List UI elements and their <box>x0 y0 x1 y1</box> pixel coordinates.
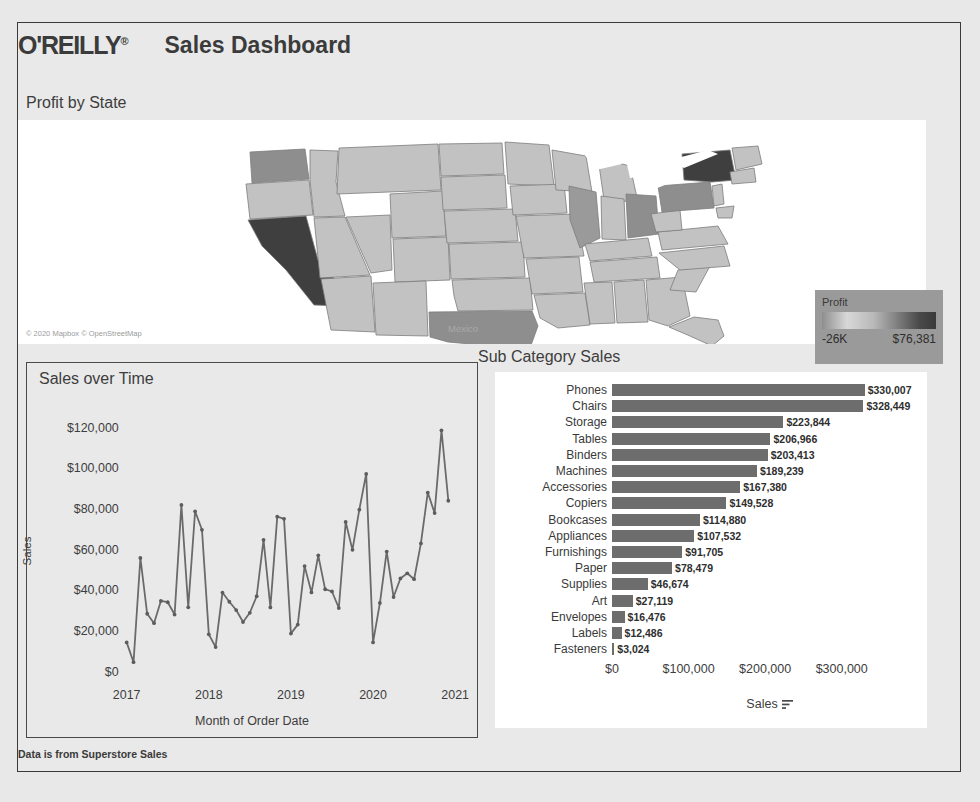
bar-value-label: $16,476 <box>628 611 666 623</box>
bar-row[interactable]: Appliances$107,532 <box>495 528 927 544</box>
bar-category-label: Binders <box>495 448 612 462</box>
bar-row[interactable]: Binders$203,413 <box>495 447 927 463</box>
sort-descending-icon[interactable] <box>782 698 793 712</box>
bar-category-label: Fasteners <box>495 642 612 656</box>
bar-row[interactable]: Storage$223,844 <box>495 414 927 430</box>
bar-row[interactable]: Paper$78,479 <box>495 560 927 576</box>
svg-text:$0: $0 <box>105 665 119 679</box>
bar-value-label: $114,880 <box>703 514 746 526</box>
bar-track: $107,532 <box>612 528 927 544</box>
us-choropleth-svg <box>18 120 926 344</box>
bar-row[interactable]: Fasteners$3,024 <box>495 641 927 657</box>
bar-fill[interactable] <box>612 433 770 445</box>
bar-row[interactable]: Art$27,119 <box>495 592 927 608</box>
svg-text:$120,000: $120,000 <box>67 421 119 435</box>
svg-text:2020: 2020 <box>359 688 387 702</box>
page-title: Sales Dashboard <box>165 32 352 59</box>
bar-track: $330,007 <box>612 382 927 398</box>
bar-axis-tick: $300,000 <box>816 662 868 676</box>
svg-text:$20,000: $20,000 <box>74 624 119 638</box>
sales-over-time-panel[interactable]: Sales over Time $0$20,000$40,000$60,000$… <box>26 362 478 738</box>
bar-fill[interactable] <box>612 497 726 509</box>
sub-category-axis-label: Sales <box>746 697 777 711</box>
sub-category-section-title: Sub Category Sales <box>478 348 620 366</box>
bar-value-label: $107,532 <box>697 530 741 542</box>
bar-value-label: $149,528 <box>729 497 773 509</box>
bar-fill[interactable] <box>612 481 740 493</box>
bar-category-label: Phones <box>495 383 612 397</box>
bar-category-label: Copiers <box>495 496 612 510</box>
bar-category-label: Appliances <box>495 529 612 543</box>
bar-category-label: Chairs <box>495 399 612 413</box>
bar-category-label: Envelopes <box>495 610 612 624</box>
bar-category-label: Accessories <box>495 480 612 494</box>
bar-row[interactable]: Supplies$46,674 <box>495 576 927 592</box>
oreilly-logo: O'REILLY® <box>18 31 129 60</box>
bar-value-label: $46,674 <box>651 578 689 590</box>
bar-fill[interactable] <box>612 384 865 396</box>
bar-fill[interactable] <box>612 546 682 558</box>
bar-row[interactable]: Bookcases$114,880 <box>495 512 927 528</box>
sub-category-axis-title: Sales <box>612 697 927 712</box>
bar-track: $149,528 <box>612 495 927 511</box>
svg-text:2018: 2018 <box>195 688 223 702</box>
map-country-label: Mexico <box>448 323 478 334</box>
bar-category-label: Labels <box>495 626 612 640</box>
bar-category-label: Paper <box>495 561 612 575</box>
bar-fill[interactable] <box>612 627 622 639</box>
profit-legend: Profit -26K $76,381 <box>815 290 943 364</box>
bar-fill[interactable] <box>612 643 614 655</box>
sales-x-axis-label: Month of Order Date <box>27 714 477 728</box>
bar-track: $3,024 <box>612 641 927 657</box>
bar-fill[interactable] <box>612 578 648 590</box>
legend-gradient-bar <box>822 312 936 329</box>
legend-title: Profit <box>822 295 936 309</box>
bar-fill[interactable] <box>612 400 863 412</box>
svg-text:$40,000: $40,000 <box>74 583 119 597</box>
footer-note: Data is from Superstore Sales <box>18 748 167 760</box>
svg-text:$100,000: $100,000 <box>67 461 119 475</box>
bar-fill[interactable] <box>612 465 757 477</box>
profit-by-state-map[interactable]: Mexico © 2020 Mapbox © OpenStreetMap <box>18 120 926 344</box>
bar-row[interactable]: Chairs$328,449 <box>495 398 927 414</box>
bar-track: $12,486 <box>612 625 927 641</box>
map-attribution: © 2020 Mapbox © OpenStreetMap <box>26 329 142 338</box>
bar-value-label: $91,705 <box>685 546 723 558</box>
bar-value-label: $27,119 <box>636 595 673 607</box>
bar-fill[interactable] <box>612 595 633 607</box>
bar-category-label: Supplies <box>495 577 612 591</box>
bar-track: $46,674 <box>612 576 927 592</box>
sales-y-axis-label: Sales <box>21 537 33 566</box>
bar-value-label: $167,380 <box>743 481 787 493</box>
bar-track: $91,705 <box>612 544 927 560</box>
legend-min-value: -26K <box>822 332 847 346</box>
bar-row[interactable]: Copiers$149,528 <box>495 495 927 511</box>
bar-row[interactable]: Phones$330,007 <box>495 382 927 398</box>
bar-row[interactable]: Envelopes$16,476 <box>495 609 927 625</box>
sub-category-sales-panel[interactable]: Phones$330,007Chairs$328,449Storage$223,… <box>495 372 927 728</box>
bar-track: $189,239 <box>612 463 927 479</box>
svg-text:2017: 2017 <box>113 688 141 702</box>
bar-row[interactable]: Tables$206,966 <box>495 431 927 447</box>
bar-fill[interactable] <box>612 611 625 623</box>
bar-row[interactable]: Labels$12,486 <box>495 625 927 641</box>
bar-track: $328,449 <box>612 398 927 414</box>
bar-track: $114,880 <box>612 512 927 528</box>
sub-category-x-axis: $0$100,000$200,000$300,000 <box>612 662 923 682</box>
bar-category-label: Storage <box>495 415 612 429</box>
bar-category-label: Bookcases <box>495 513 612 527</box>
bar-category-label: Machines <box>495 464 612 478</box>
bar-fill[interactable] <box>612 530 694 542</box>
svg-text:2021: 2021 <box>441 688 469 702</box>
bar-fill[interactable] <box>612 562 672 574</box>
bar-axis-tick: $0 <box>605 662 619 676</box>
bar-fill[interactable] <box>612 514 700 526</box>
bar-fill[interactable] <box>612 416 783 428</box>
svg-text:2019: 2019 <box>277 688 305 702</box>
bar-fill[interactable] <box>612 449 768 461</box>
bar-row[interactable]: Accessories$167,380 <box>495 479 927 495</box>
bar-category-label: Tables <box>495 432 612 446</box>
bar-row[interactable]: Furnishings$91,705 <box>495 544 927 560</box>
bar-row[interactable]: Machines$189,239 <box>495 463 927 479</box>
svg-text:$60,000: $60,000 <box>74 543 119 557</box>
